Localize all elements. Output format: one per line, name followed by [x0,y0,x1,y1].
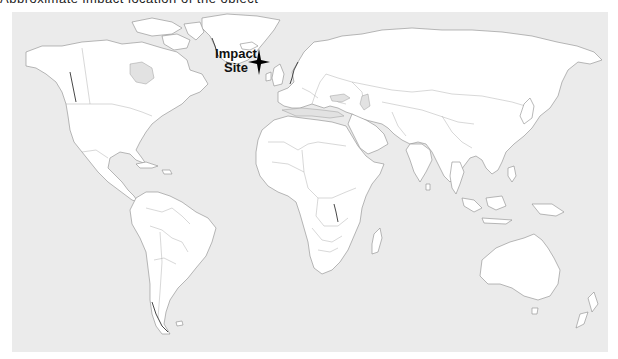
australia [480,234,560,300]
world-map-svg [12,12,608,352]
cropped-caption: Approximate impact location of the objec… [0,0,618,3]
north-america [26,40,208,202]
world-map: Impact Site [12,12,608,352]
impact-site-label-line2: Site [224,60,248,75]
south-america [130,192,216,334]
four-point-star-icon [248,49,270,75]
